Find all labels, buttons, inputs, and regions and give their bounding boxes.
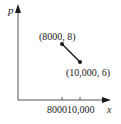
point-label-1: (8000, 8)	[39, 32, 76, 42]
point-label-2: (10,000, 6)	[66, 68, 110, 78]
x-axis-label: x	[107, 105, 111, 115]
data-point-2	[78, 60, 82, 64]
data-line	[62, 44, 80, 62]
x-tick-label-10000: 10,000	[67, 105, 95, 115]
x-axis-arrow-icon	[102, 97, 111, 103]
y-axis-arrow-icon	[15, 4, 21, 13]
chart: p x 8000 10,000 (8000, 8) (10,000, 6)	[0, 0, 121, 124]
y-axis-label: p	[8, 5, 14, 16]
x-tick-label-8000: 8000	[47, 105, 67, 115]
data-point-1	[60, 42, 64, 46]
